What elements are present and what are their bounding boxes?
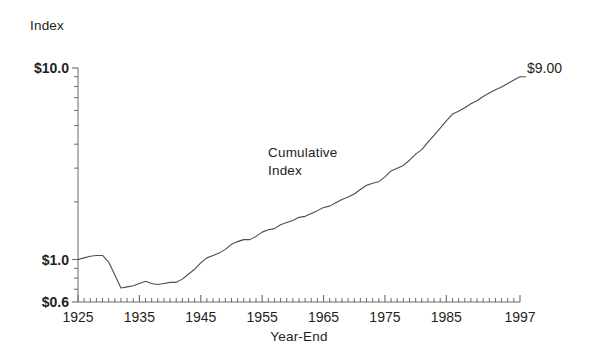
x-axis-tick-label: 1985 xyxy=(431,310,462,324)
series-annotation: Cumulative Index xyxy=(268,144,338,180)
x-axis-title: Year-End xyxy=(270,329,327,344)
cumulative-index-chart: Index $10.0$1.0$0.6 19251935194519551965… xyxy=(0,0,600,357)
x-axis-tick-label: 1945 xyxy=(185,310,216,324)
x-axis-tick-label: 1975 xyxy=(369,310,400,324)
x-axis-tick-label: 1935 xyxy=(124,310,155,324)
x-axis-tick-label: 1925 xyxy=(62,310,93,324)
endpoint-value-label: $9.00 xyxy=(527,61,562,75)
series-annotation-line1: Cumulative xyxy=(268,144,338,162)
x-axis-tick-label: 1997 xyxy=(504,310,535,324)
series-annotation-line2: Index xyxy=(268,162,338,180)
x-axis-tick-label: 1955 xyxy=(247,310,278,324)
x-axis-tick-label: 1965 xyxy=(308,310,339,324)
